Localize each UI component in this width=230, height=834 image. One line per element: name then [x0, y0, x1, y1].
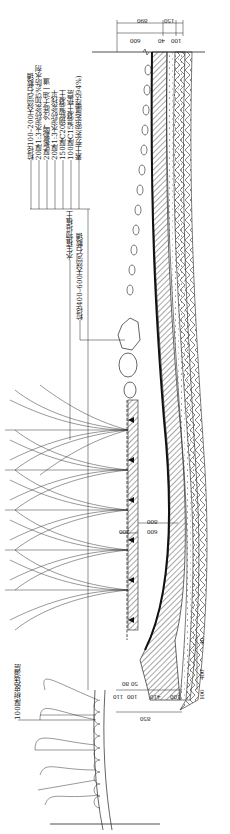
dim-600-mid: 600 — [147, 528, 158, 535]
dim-600: 600 — [130, 37, 141, 44]
large-boulders — [118, 318, 140, 398]
dim-50: 50 — [131, 680, 138, 687]
plant-clump-5 — [5, 550, 128, 630]
callout-bark-mulch: 100厚树皮保湿层 — [14, 650, 22, 720]
dim-40: 40 — [158, 37, 165, 44]
dim-400-v: 400 — [199, 670, 206, 681]
dim-100-a: 100 — [127, 693, 138, 700]
river-stone-pebbles — [127, 65, 151, 295]
bank-planting — [35, 679, 160, 830]
plant-clump-4 — [5, 510, 128, 590]
callout-planting-soil: 水生植物培植土 — [66, 185, 74, 260]
dim-40-v: 40 — [199, 638, 206, 645]
dim-410: 410 — [150, 693, 161, 700]
plant-clump-3 — [5, 470, 128, 550]
dim-890: 890 — [137, 17, 148, 24]
dim-100-v: 100 — [199, 690, 206, 701]
dim-850: 850 — [140, 715, 151, 722]
dim-200: 200 — [119, 528, 130, 535]
dim-80: 80 — [122, 680, 129, 687]
pond-floor — [127, 400, 138, 640]
dim-100: 100 — [171, 37, 182, 44]
callout-large-stones: 粒径400–600天然河石散铺 — [76, 228, 84, 320]
dim-150: 150 — [164, 17, 175, 24]
dim-800: 800 — [147, 518, 158, 525]
dim-110: 110 — [113, 693, 123, 700]
aquatic-plants — [5, 385, 128, 630]
dim-100-b: 100 — [170, 693, 181, 700]
plant-clump-2 — [5, 430, 128, 510]
callout-compacted-soil: 素土夯实(密实度需达94%) — [75, 62, 83, 160]
